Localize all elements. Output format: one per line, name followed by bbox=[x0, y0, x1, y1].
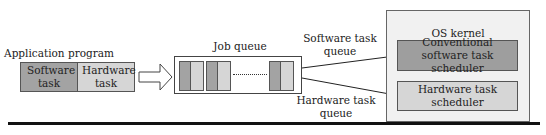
bottom-rule bbox=[8, 122, 540, 125]
hardware-queue-arrow bbox=[302, 78, 395, 95]
software-queue-arrow bbox=[302, 56, 395, 68]
software-scheduler-box: Conventional software task scheduler bbox=[397, 40, 518, 71]
software-scheduler-label: Conventional software task scheduler bbox=[400, 36, 515, 75]
hardware-scheduler-box: Hardware task scheduler bbox=[397, 81, 518, 111]
hardware-scheduler-label: Hardware task scheduler bbox=[418, 83, 498, 109]
